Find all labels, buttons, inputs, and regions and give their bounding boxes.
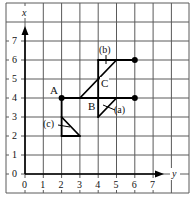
svg-text:6: 6 — [132, 179, 137, 190]
svg-text:1: 1 — [40, 179, 45, 190]
svg-text:3: 3 — [77, 179, 82, 190]
horizontal-tick-labels: 0 1 2 3 4 5 6 7 — [20, 178, 158, 190]
svg-text:3: 3 — [12, 111, 17, 122]
point-c-label: C — [101, 77, 108, 89]
shape-label-c: (c) — [43, 118, 54, 130]
svg-text:7: 7 — [150, 179, 155, 190]
svg-text:4: 4 — [12, 92, 17, 103]
svg-text:5: 5 — [12, 73, 17, 84]
shape-label-b: (b) — [99, 44, 111, 56]
vertical-axis-label: x — [21, 7, 27, 18]
svg-text:2: 2 — [59, 179, 64, 190]
horizontal-axis-label: y — [171, 168, 177, 179]
point-top-right-dot — [132, 57, 138, 63]
coordinate-grid-diagram: x y 0 1 2 3 4 5 6 7 0 1 2 3 4 5 6 7 — [0, 0, 193, 202]
horizontal-axis-arrow-icon — [155, 171, 164, 178]
svg-text:7: 7 — [12, 35, 17, 46]
point-a-dot — [59, 95, 65, 101]
pointer-c — [58, 125, 70, 127]
point-right-4-dot — [132, 95, 138, 101]
vertical-axis-arrow-icon — [22, 26, 29, 35]
svg-text:6: 6 — [12, 54, 17, 65]
shape-label-a: (a) — [114, 104, 125, 116]
svg-text:2: 2 — [12, 130, 17, 141]
point-a-label: A — [50, 84, 58, 96]
svg-text:0: 0 — [22, 179, 27, 190]
svg-text:1: 1 — [12, 149, 17, 160]
svg-text:4: 4 — [95, 179, 100, 190]
vertical-tick-labels: 0 1 2 3 4 5 6 7 — [9, 35, 21, 179]
svg-text:0: 0 — [12, 168, 17, 179]
svg-text:5: 5 — [114, 179, 119, 190]
point-b-label: B — [88, 100, 95, 112]
